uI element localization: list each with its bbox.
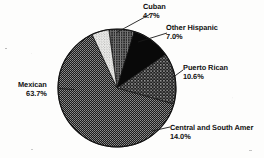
scan-speck bbox=[5, 48, 7, 49]
slice-label-central-south-name: Central and South Amer bbox=[170, 123, 253, 132]
slice-label-central-south-pct: 14.0% bbox=[170, 133, 253, 142]
pie-chart-figure: Cuban 4.7% Other Hispanic 7.0% Puerto Ri… bbox=[0, 0, 264, 158]
slice-label-puerto-rican: Puerto Rican 10.6% bbox=[183, 64, 228, 81]
slice-label-central-south: Central and South Amer 14.0% bbox=[170, 124, 253, 141]
slice-label-puerto-rican-pct: 10.6% bbox=[183, 73, 228, 82]
slice-label-other-hispanic-name: Other Hispanic bbox=[166, 23, 218, 32]
slice-label-mexican-pct: 63.7% bbox=[18, 90, 47, 99]
scan-speck bbox=[31, 149, 33, 150]
slice-label-cuban: Cuban 4.7% bbox=[143, 3, 166, 20]
slice-label-cuban-pct: 4.7% bbox=[143, 12, 166, 21]
scan-speck bbox=[249, 150, 252, 151]
slice-label-mexican: Mexican 63.7% bbox=[18, 81, 47, 98]
slice-label-other-hispanic-pct: 7.0% bbox=[166, 33, 218, 42]
slice-label-other-hispanic: Other Hispanic 7.0% bbox=[166, 24, 218, 41]
slice-label-puerto-rican-name: Puerto Rican bbox=[183, 63, 228, 72]
slice-label-cuban-name: Cuban bbox=[143, 2, 166, 11]
slice-label-mexican-name: Mexican bbox=[18, 80, 47, 89]
